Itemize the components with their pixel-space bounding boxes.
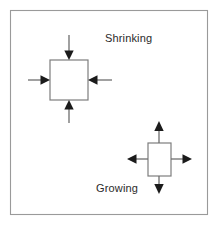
arrow-left-from-left xyxy=(127,154,148,163)
shrinking-diagram: Shrinking xyxy=(28,32,152,123)
arrow-up-into-bottom xyxy=(64,100,73,123)
arrow-left-into-right xyxy=(88,75,112,84)
arrow-head-right xyxy=(41,75,51,84)
arrow-down-into-top xyxy=(64,35,73,60)
figure-canvas: Shrinking Growing xyxy=(0,0,219,226)
arrow-head-down xyxy=(154,184,163,194)
arrow-head-left xyxy=(127,154,137,163)
shrinking-label: Shrinking xyxy=(105,32,152,44)
growing-box xyxy=(148,143,171,176)
arrow-up-from-top xyxy=(154,121,163,143)
arrow-head-down xyxy=(64,51,73,61)
arrow-head-up xyxy=(64,100,73,110)
growing-label: Growing xyxy=(96,182,138,194)
arrow-head-up xyxy=(154,121,163,131)
arrow-down-from-bottom xyxy=(154,176,163,194)
growing-diagram: Growing xyxy=(96,121,192,194)
shrinking-box xyxy=(50,60,88,100)
arrow-right-from-right xyxy=(171,154,192,163)
arrow-head-right xyxy=(183,154,193,163)
diagram-svg: Shrinking Growing xyxy=(0,0,219,226)
arrow-right-into-left xyxy=(28,75,50,84)
arrow-head-left xyxy=(88,75,98,84)
